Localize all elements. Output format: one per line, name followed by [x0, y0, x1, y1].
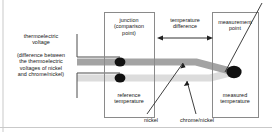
- junction-chrome-node: [115, 73, 126, 82]
- label-measurement-point: measurement point: [212, 19, 258, 32]
- wire-nickel: [77, 62, 234, 72]
- temperature-difference-arrow-head-left: [157, 35, 163, 40]
- label-thermoelectric-voltage: thermoelectric voltage: [8, 33, 74, 46]
- label-thermoelectric-difference: (difference between the thermoelectric v…: [2, 52, 80, 78]
- leader-thermoelectric-voltage: [77, 34, 120, 57]
- label-nickel: nickel: [129, 117, 173, 123]
- label-measured-temperature: measured temperature: [212, 92, 258, 105]
- callout-arrow-chrome-nickel: [184, 81, 190, 86]
- label-reference-temperature: reference temperature: [106, 92, 152, 105]
- label-chrome-nickel: chrome/nickel: [168, 117, 226, 123]
- probe-line: [225, 3, 262, 72]
- callout-line-nickel: [147, 63, 183, 114]
- thermocouple-diagram: thermoelectric voltage (difference betwe…: [0, 0, 272, 132]
- measurement-node: [226, 66, 241, 78]
- callout-line-chrome-nickel: [187, 81, 196, 114]
- junction-nickel-node: [115, 57, 126, 66]
- label-junction: junction (comparison point): [106, 17, 152, 36]
- label-temperature-difference: temperature difference: [157, 17, 213, 30]
